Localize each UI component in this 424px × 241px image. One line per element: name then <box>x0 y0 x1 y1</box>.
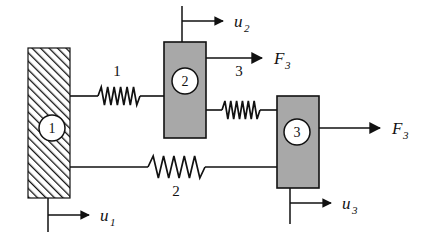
displacement-u2-symbol: u <box>234 12 243 31</box>
spring-3-label: 3 <box>235 63 243 79</box>
spring-1: 1 <box>98 63 140 105</box>
spring-1-label: 1 <box>113 63 121 79</box>
force-f3-lower-symbol: F <box>391 119 403 138</box>
spring-2-coil <box>148 156 205 178</box>
spring-2: 2 <box>148 156 205 199</box>
node-1-label: 1 <box>49 121 56 136</box>
displacement-indicator-u1: u 1 <box>48 198 116 232</box>
force-arrow-f3-upper: F 3 <box>206 49 291 71</box>
displacement-u3-symbol: u <box>342 194 351 213</box>
force-arrow-f3-lower: F 3 <box>319 119 409 141</box>
diagram-canvas: 1 2 3 1 2 3 <box>0 0 424 241</box>
node-2-label: 2 <box>182 74 189 89</box>
displacement-indicator-u2: u 2 <box>182 6 250 42</box>
displacement-u1-subscript: 1 <box>110 216 116 228</box>
node-3: 3 <box>284 119 310 145</box>
spring-system-diagram: 1 2 3 1 2 3 <box>0 0 424 241</box>
force-f3-upper-subscript: 3 <box>284 59 291 71</box>
spring-3: 3 <box>222 63 260 119</box>
force-f3-upper-symbol: F <box>273 49 285 68</box>
spring-1-coil <box>98 87 140 105</box>
node-1: 1 <box>39 115 65 141</box>
force-f3-lower-subscript: 3 <box>402 129 409 141</box>
node-3-label: 3 <box>294 125 301 140</box>
node-2: 2 <box>172 68 198 94</box>
spring-3-coil <box>222 101 260 119</box>
displacement-u3-subscript: 3 <box>351 204 358 216</box>
displacement-indicator-u3: u 3 <box>290 188 358 224</box>
spring-2-label: 2 <box>172 183 180 199</box>
displacement-u2-subscript: 2 <box>244 22 250 34</box>
displacement-u1-symbol: u <box>100 206 109 225</box>
